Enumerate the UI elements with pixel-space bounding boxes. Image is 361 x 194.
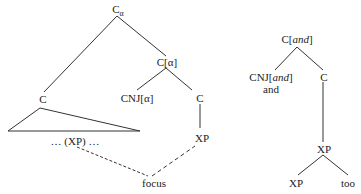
right-xp-bottom-node: XP [289,177,303,189]
left-root-subscript: α [120,9,124,18]
xp-node: XP [195,132,209,144]
cnj-word: and [263,83,279,95]
right-root-italic: and [292,33,309,45]
cnj-alpha-node: CNJ[α] [121,92,154,104]
cnj-and-italic: and [273,71,290,83]
c-alpha-node: C[α] [157,56,177,68]
right-root-node: C[and] [281,33,312,45]
cnj-and-base: CNJ[ [249,71,272,83]
left-root-node: Cα [112,3,124,20]
tree-lines [0,0,361,194]
too-label: too [341,177,355,189]
cnj-and-close: ] [289,71,293,83]
right-root-base: C[ [281,33,292,45]
c-left-node: C [39,93,46,105]
right-root-close: ] [309,33,313,45]
cnj-and-node: CNJ[and] [249,71,292,83]
xp-gap-label: … (XP) … [51,135,100,147]
focus-label: focus [142,177,166,189]
right-c-node: C [320,71,327,83]
right-xp-top-node: XP [317,143,331,155]
c-right-node: C [196,92,203,104]
